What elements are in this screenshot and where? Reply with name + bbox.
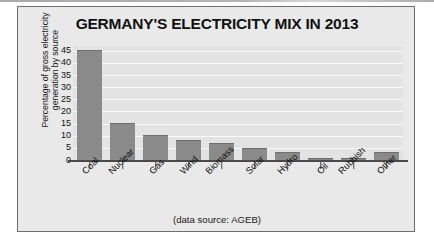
bar-cell[interactable] <box>271 46 304 160</box>
y-axis-tick-label: 15 <box>61 119 71 128</box>
y-axis-tick-labels: 454035302520151050 <box>51 41 71 165</box>
x-axis-label-cell: Solar <box>238 167 271 213</box>
y-axis-tick-label: 10 <box>61 131 71 140</box>
plot-area <box>73 46 403 160</box>
y-axis-tick-label: 25 <box>61 95 71 104</box>
x-axis-label-cell: Rubbish <box>337 167 370 213</box>
bar-cell[interactable] <box>337 46 370 160</box>
x-axis-category-labels: CoalNuclearGasWindBiomassSolarHydroOilRu… <box>73 167 403 213</box>
x-axis-label-cell: Biomass <box>205 167 238 213</box>
y-axis-tick-label: 35 <box>61 71 71 80</box>
x-axis-label-cell: Nuclear <box>106 167 139 213</box>
y-axis-tick-label: 45 <box>61 46 71 55</box>
bar-cell[interactable] <box>304 46 337 160</box>
bar-cell[interactable] <box>205 46 238 160</box>
y-axis-tick-label: 30 <box>61 83 71 92</box>
x-axis-label-cell: Other <box>370 167 403 213</box>
y-axis-tick-label: 20 <box>61 107 71 116</box>
x-axis-label-cell: Gas <box>139 167 172 213</box>
chart-figure: GERMANY'S ELECTRICITY MIX IN 2013 Percen… <box>17 6 415 232</box>
bar-series <box>73 46 403 160</box>
scan-artifact-line <box>0 0 434 2</box>
bar-cell[interactable] <box>106 46 139 160</box>
x-axis-label-cell: Oil <box>304 167 337 213</box>
chart-title: GERMANY'S ELECTRICITY MIX IN 2013 <box>18 15 416 33</box>
x-axis-label-cell: Coal <box>73 167 106 213</box>
y-axis-tick-label: 40 <box>61 58 71 67</box>
x-axis-label-cell: Wind <box>172 167 205 213</box>
y-axis-title-line-1: Percentage of gross electricity <box>40 12 51 127</box>
y-axis-tick-label: 5 <box>66 143 71 152</box>
x-axis-label-cell: Hydro <box>271 167 304 213</box>
bar-coal[interactable] <box>77 50 103 160</box>
source-note: (data source: AGEB) <box>18 214 416 225</box>
bar-cell[interactable] <box>73 46 106 160</box>
bar-cell[interactable] <box>139 46 172 160</box>
bar-cell[interactable] <box>370 46 403 160</box>
bar-cell[interactable] <box>172 46 205 160</box>
bar-gas[interactable] <box>143 135 169 160</box>
bar-cell[interactable] <box>238 46 271 160</box>
